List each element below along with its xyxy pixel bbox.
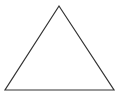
- triangle-diagram: [0, 0, 126, 103]
- triangle-shape: [5, 6, 114, 90]
- diagram-canvas: [0, 0, 126, 103]
